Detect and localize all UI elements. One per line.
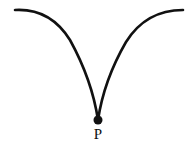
point-p-marker bbox=[94, 116, 103, 125]
right-arc bbox=[98, 10, 183, 120]
cusp-diagram: P bbox=[0, 0, 185, 146]
point-p-label: P bbox=[94, 126, 102, 142]
left-arc bbox=[15, 10, 98, 120]
